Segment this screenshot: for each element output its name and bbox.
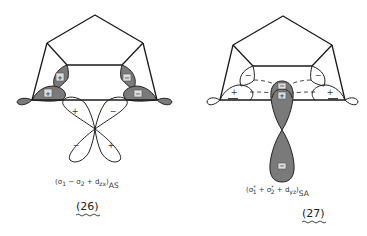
underline-26 <box>76 214 100 216</box>
sign-27-lower-left: + <box>231 88 238 97</box>
sigma1-star-lobes-left: − + <box>207 66 254 105</box>
formula-27-sub3: yz <box>289 188 296 195</box>
symmetry-label-27: SA <box>299 189 309 198</box>
formula-27-op2: + d <box>275 186 290 194</box>
sign-dzx-bottom-right: + <box>108 141 115 150</box>
formula-27-op1: + σ <box>257 186 272 194</box>
formula-27-sub2: 2 <box>271 188 275 195</box>
figure-27: − + − + − + − <box>207 16 358 182</box>
underline-27 <box>302 221 326 223</box>
dyz-orbital: − + − <box>270 81 294 182</box>
sign-upper-right: − <box>124 74 129 82</box>
formula-26-op2: + d <box>85 178 100 186</box>
symmetry-label-26: AS <box>109 181 119 190</box>
sign-27-lower-right: + <box>327 88 334 97</box>
sign-27-upper-left: − <box>245 71 252 80</box>
sigma2-star-lobes-right: − + <box>311 66 358 105</box>
formula-26-sub3: zx <box>99 180 106 187</box>
sign-27-upper-right: − <box>315 71 322 80</box>
formula-27: (σ*1 + σ*2 + dyz)SA <box>246 185 309 194</box>
formula-26-op1: − σ <box>66 178 81 186</box>
sigma2-lobes-right: − − <box>121 65 172 105</box>
dzx-orbital: + − − + <box>63 97 128 162</box>
sign-dyz-bottom: − <box>279 162 284 170</box>
figure-number-27: (27) <box>302 207 325 220</box>
sign-dyz-top-lower: + <box>279 92 284 100</box>
sign-dzx-top-left: + <box>72 107 79 116</box>
sigma1-lobes-left: + + <box>17 65 68 105</box>
sign-dzx-top-right: − <box>110 107 117 116</box>
formula-26: (σ1 − σ2 + dzx)AS <box>55 177 119 186</box>
figure-number-26: (26) <box>76 200 99 213</box>
formula-26-sub1: 1 <box>62 180 66 187</box>
sign-dzx-bottom-left: − <box>73 141 80 150</box>
orbital-diagrams: + + − − + <box>0 0 367 236</box>
formula-26-sub2: 2 <box>81 180 85 187</box>
sign-lower-right: − <box>135 90 140 98</box>
figure-26: + + − − + <box>17 15 172 162</box>
sign-upper-left: + <box>57 74 62 82</box>
sign-lower-left: + <box>45 90 50 98</box>
sign-dyz-top-upper: − <box>279 82 284 90</box>
formula-27-sub1: 1 <box>253 188 257 195</box>
